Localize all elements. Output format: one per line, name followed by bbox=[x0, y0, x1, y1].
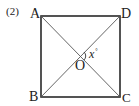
vertex-label-D: D bbox=[121, 7, 131, 21]
vertex-label-C: C bbox=[122, 91, 131, 104]
angle-variable: x bbox=[89, 47, 94, 61]
center-label-O: O bbox=[75, 59, 85, 73]
square-diagram: (2) A D B C O x° bbox=[0, 0, 139, 106]
angle-label-x: x° bbox=[89, 48, 98, 60]
degree-symbol: ° bbox=[95, 48, 97, 54]
vertex-label-B: B bbox=[29, 90, 38, 104]
vertex-label-A: A bbox=[30, 7, 40, 21]
figure-canvas bbox=[0, 0, 139, 106]
problem-number: (2) bbox=[6, 6, 19, 17]
